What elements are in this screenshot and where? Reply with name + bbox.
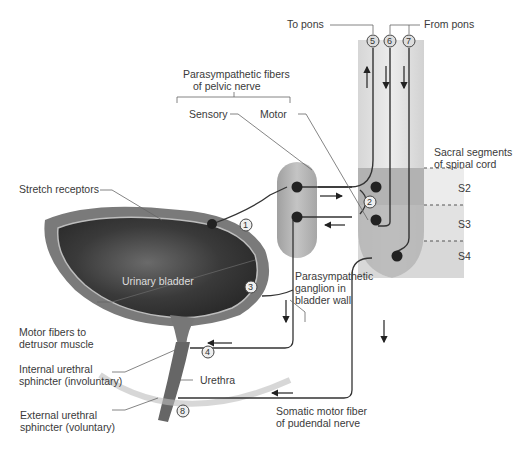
svg-text:3: 3 — [248, 282, 253, 292]
label-ganglion-3: bladder wall — [295, 294, 351, 306]
label-internal-sphincter-2: sphincter (involuntary) — [19, 375, 122, 387]
spinal-cord — [358, 40, 424, 278]
step-4: 4 — [202, 346, 214, 358]
label-internal-sphincter-1: Internal urethral — [19, 363, 93, 375]
step-2: 2 — [364, 196, 376, 208]
label-ganglion-2: ganglion in — [295, 282, 346, 294]
label-pudendal-nerve: of pudendal nerve — [276, 417, 360, 429]
step-5: 5 — [367, 35, 379, 47]
step-8: 8 — [177, 405, 189, 417]
label-s3: S3 — [458, 218, 471, 230]
label-motor-fibers: Motor fibers to — [19, 326, 86, 338]
svg-text:4: 4 — [205, 347, 210, 357]
svg-text:7: 7 — [406, 36, 411, 46]
parasympathetic-ganglion — [277, 162, 317, 258]
label-parasympathetic-fibers: Parasympathetic fibers — [183, 68, 290, 80]
label-somatic-motor-fiber: Somatic motor fiber — [276, 405, 367, 417]
label-external-sphincter-2: sphincter (voluntary) — [20, 421, 115, 433]
label-s4: S4 — [458, 250, 471, 262]
svg-text:1: 1 — [243, 220, 248, 230]
label-sacral-segments: Sacral segments — [434, 146, 512, 158]
svg-text:6: 6 — [387, 36, 392, 46]
label-of-spinal-cord: of spinal cord — [434, 158, 496, 170]
label-sensory: Sensory — [189, 108, 228, 120]
label-from-pons: From pons — [424, 18, 474, 30]
step-7: 7 — [403, 35, 415, 47]
label-stretch-receptors: Stretch receptors — [19, 183, 99, 195]
label-detrusor-muscle: detrusor muscle — [19, 338, 94, 350]
label-urethra: Urethra — [200, 374, 235, 386]
urinary-bladder-illustration — [44, 207, 290, 422]
svg-text:5: 5 — [370, 36, 375, 46]
label-s2: S2 — [458, 182, 471, 194]
svg-text:2: 2 — [367, 197, 372, 207]
label-ganglion-1: Parasympathetic — [295, 270, 373, 282]
step-6: 6 — [384, 35, 396, 47]
label-external-sphincter-1: External urethral — [20, 409, 97, 421]
step-1: 1 — [240, 219, 252, 231]
label-motor: Motor — [260, 108, 287, 120]
label-to-pons: To pons — [287, 18, 324, 30]
label-pelvic-nerve: of pelvic nerve — [193, 80, 261, 92]
svg-text:8: 8 — [180, 406, 185, 416]
label-urinary-bladder: Urinary bladder — [122, 275, 194, 287]
step-3: 3 — [245, 281, 257, 293]
